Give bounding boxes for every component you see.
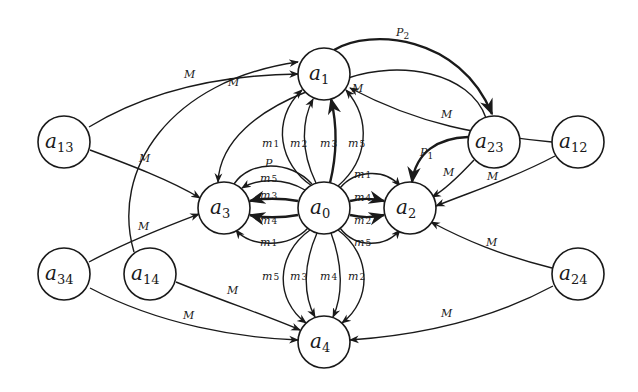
nodes: a1 a13 a23 a12 a3 a0 a2 a34: [38, 48, 604, 368]
node-a13: a13: [38, 116, 90, 168]
node-a1: a1: [298, 48, 350, 100]
label-left-0: P: [264, 157, 273, 170]
label-m-a23-a2: M: [442, 166, 455, 179]
label-right-2: m2: [354, 214, 371, 227]
label-bottom-0: m5: [262, 270, 279, 283]
node-a24: a24: [552, 248, 604, 300]
edge-a1-a23-thin: [348, 70, 486, 118]
label-m-a12-a2: M: [486, 170, 499, 183]
label-m-a24-a2: M: [485, 236, 498, 249]
node-a0: a0: [298, 182, 350, 234]
label-left-3: m4: [260, 214, 277, 227]
label-top-1: m2: [290, 137, 307, 150]
label-m-a14-mid: M: [138, 152, 151, 165]
label-m-a34-a3: M: [137, 220, 150, 233]
node-a34: a34: [38, 248, 90, 300]
label-m-a14-a1: M: [227, 76, 240, 89]
node-a23: a23: [468, 116, 520, 168]
label-m-a12-a1: M: [351, 82, 364, 95]
label-m-a14-a4: M: [226, 284, 239, 297]
edge-a1-a23-p2: [334, 39, 492, 114]
edge-a0-a4-m3: [306, 233, 317, 317]
label-left-2: m3: [260, 189, 277, 202]
label-top-0: m1: [262, 137, 279, 150]
label-left-1: m5: [260, 172, 277, 185]
label-m-a34-a4: M: [182, 309, 195, 322]
node-a4: a4: [298, 316, 350, 368]
node-a3: a3: [198, 182, 250, 234]
label-bottom-1: m3: [290, 270, 307, 283]
label-m-a24-a4: M: [440, 307, 453, 320]
label-right-0: m1: [354, 168, 371, 181]
node-a14: a14: [124, 248, 176, 300]
label-right-3: m5: [354, 236, 371, 249]
label-top-2: m3: [320, 137, 337, 150]
label-bottom-2: m4: [320, 270, 337, 283]
label-right-1: m4: [354, 191, 371, 204]
label-m-a12-a1-b: M: [440, 108, 453, 121]
label-left-4: m1: [260, 236, 277, 249]
label-top-3: m5: [348, 137, 365, 150]
label-p2: P2: [395, 26, 409, 41]
node-a12: a12: [552, 116, 604, 168]
graph-diagram: P2 P1 M M M M M M M M M M M M m1 m2 m3 m…: [0, 0, 638, 392]
node-a2: a2: [384, 182, 436, 234]
label-m-a13-a1: M: [183, 68, 196, 81]
label-bottom-3: m2: [348, 270, 365, 283]
